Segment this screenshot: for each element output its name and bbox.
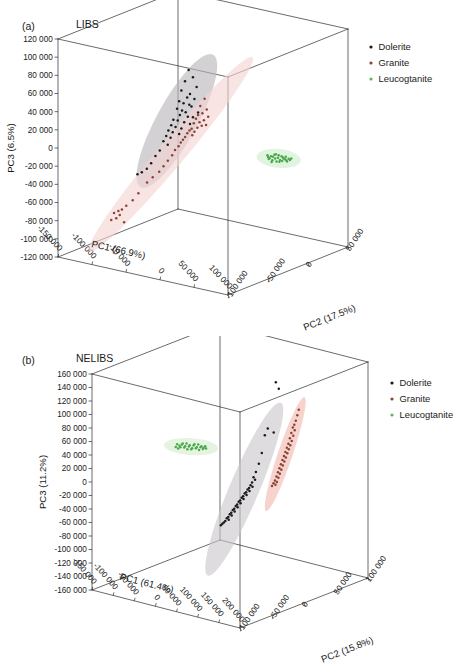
data-point — [176, 107, 179, 110]
data-point — [123, 221, 126, 224]
z-axis-title: PC3 (6.5%) — [5, 123, 16, 173]
data-point — [180, 89, 183, 92]
data-point — [197, 111, 200, 114]
legend-label: Leucogtanite — [379, 73, 433, 84]
data-point — [258, 463, 261, 466]
data-point — [282, 464, 285, 467]
data-point — [177, 447, 180, 450]
data-point — [180, 141, 183, 144]
data-point — [277, 154, 280, 157]
y-axis-title: PC2 (17.5%) — [302, 302, 357, 333]
data-point — [178, 100, 181, 103]
data-point — [267, 427, 270, 430]
data-point — [298, 409, 301, 412]
data-point — [236, 506, 239, 509]
data-point — [174, 126, 177, 128]
plot-title: NELIBS — [76, 352, 113, 364]
z-tick-label: -40 000 — [25, 180, 53, 189]
plot-title: LIBS — [76, 18, 99, 30]
data-point — [125, 205, 128, 208]
data-point — [172, 118, 175, 121]
data-point — [191, 134, 194, 137]
z-tick-label: 140 000 — [57, 383, 87, 392]
data-point — [181, 109, 184, 112]
data-point — [179, 446, 182, 449]
legend-marker — [390, 397, 393, 400]
data-point — [191, 447, 194, 450]
data-point — [198, 121, 201, 124]
data-point — [293, 423, 296, 426]
data-point — [174, 149, 177, 152]
data-point — [182, 138, 185, 141]
data-point — [137, 192, 140, 195]
data-point — [189, 93, 192, 96]
data-point — [159, 149, 162, 152]
z-tick-label: 80 000 — [28, 71, 53, 80]
x-tick-label: 0 — [152, 593, 162, 603]
z-tick-label: 60 000 — [28, 89, 53, 98]
data-point — [290, 157, 293, 160]
data-point — [141, 171, 144, 174]
data-point — [275, 381, 278, 384]
data-point — [248, 490, 251, 493]
data-point — [192, 116, 195, 119]
data-point — [288, 448, 291, 451]
data-point — [166, 144, 169, 147]
panel-a-libs: 120 000100 00080 00060 00040 00020 0000-… — [0, 0, 476, 336]
z-tick-label: 20 000 — [62, 464, 87, 473]
data-point — [289, 444, 292, 447]
plot-b-svg: 160 000140 000120 000100 00080 00060 000… — [0, 336, 476, 672]
data-point — [186, 132, 189, 135]
panel-label: (a) — [22, 20, 35, 32]
data-point — [278, 388, 281, 391]
data-point — [186, 96, 189, 99]
data-point — [136, 173, 139, 176]
data-point — [197, 443, 200, 446]
data-point — [291, 440, 294, 443]
data-point — [186, 448, 189, 451]
data-point — [272, 156, 275, 159]
data-point — [171, 131, 174, 134]
data-point — [239, 502, 242, 505]
z-tick-label: -80 000 — [59, 532, 87, 541]
data-point — [292, 434, 295, 437]
data-point — [230, 514, 233, 517]
data-point — [280, 468, 283, 471]
legend-marker — [390, 413, 393, 416]
z-tick-label: -60 000 — [25, 198, 53, 207]
data-point — [167, 129, 170, 132]
data-point — [165, 135, 168, 138]
z-tick-label: -80 000 — [25, 217, 53, 226]
data-point — [151, 176, 154, 179]
legend-label: Dolerite — [379, 41, 411, 52]
plot-a-svg: 120 000100 00080 00060 00040 00020 0000-… — [0, 0, 476, 336]
data-point — [242, 498, 245, 501]
data-point — [289, 437, 292, 440]
panel-b-nelibs: 160 000140 000120 000100 00080 00060 000… — [0, 336, 476, 672]
y-tick-label: -50 000 — [264, 256, 287, 284]
data-point — [195, 86, 198, 89]
data-point — [188, 444, 191, 447]
data-point — [277, 477, 280, 480]
data-point — [205, 108, 208, 111]
data-point — [170, 124, 173, 127]
data-point — [292, 426, 295, 429]
data-point — [193, 443, 196, 446]
data-point — [184, 445, 187, 448]
z-tick-label: 80 000 — [62, 424, 87, 433]
x-tick-label: 50 000 — [177, 259, 201, 284]
y-axis-title: PC2 (15.8%) — [320, 634, 375, 664]
data-point — [277, 157, 280, 160]
data-point — [190, 105, 193, 108]
z-tick-label: 120 000 — [57, 397, 87, 406]
panel-label: (b) — [22, 354, 35, 366]
cluster-ellipsoid — [79, 49, 262, 260]
data-point — [272, 431, 275, 434]
data-point — [275, 160, 278, 163]
data-point — [178, 133, 181, 136]
data-point — [293, 429, 296, 432]
data-point — [195, 118, 198, 121]
data-point — [119, 214, 122, 217]
data-point — [233, 510, 236, 513]
cluster-ellipsoid — [163, 436, 219, 457]
